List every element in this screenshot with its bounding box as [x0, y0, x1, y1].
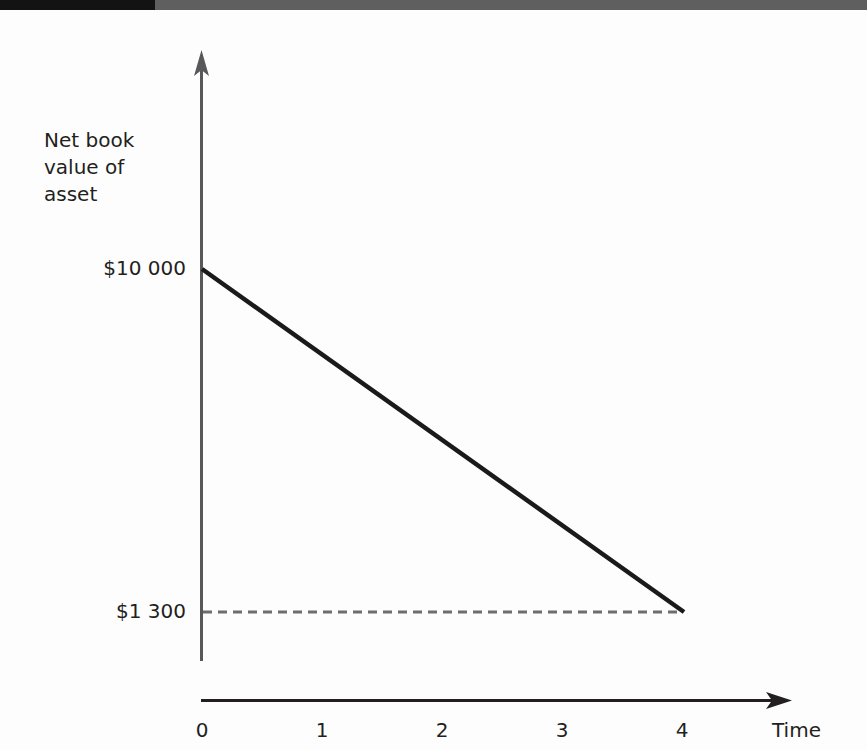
x-tick-label-2: 2 — [422, 717, 462, 744]
y-axis — [194, 50, 209, 661]
depreciation-line — [202, 269, 684, 612]
x-axis-title: Time — [772, 717, 821, 744]
x-axis — [201, 692, 792, 709]
chart-page: Net book value of asset $10 000 $1 300 0… — [0, 0, 867, 750]
x-tick-label-0: 0 — [182, 717, 222, 744]
y-tick-label-1300: $1 300 — [36, 598, 186, 625]
x-tick-label-3: 3 — [542, 717, 582, 744]
x-tick-label-1: 1 — [302, 717, 342, 744]
x-tick-label-4: 4 — [662, 717, 702, 744]
y-axis-title: Net book value of asset — [44, 127, 194, 208]
y-tick-label-10000: $10 000 — [36, 255, 186, 282]
net-book-value-chart — [0, 0, 867, 750]
